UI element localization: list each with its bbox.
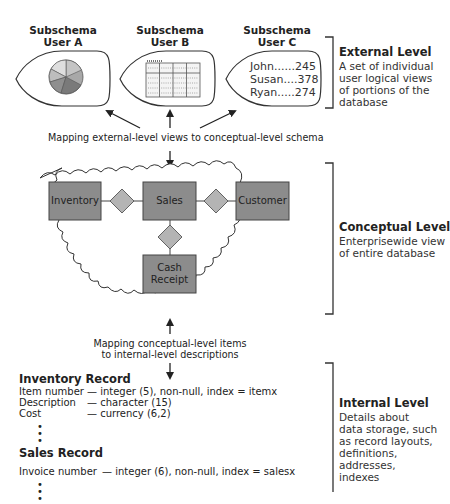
internal-level-label: Internal Level Details about data storag…	[339, 398, 449, 483]
subschema-b-view	[120, 51, 215, 106]
mapping-line2: to internal-level descriptions	[80, 349, 260, 360]
subschema-a-title-line1: Subschema	[23, 24, 103, 36]
desc-line: database	[339, 96, 433, 108]
user-c-list: John......245 Susan....378 Ryan.....274	[250, 60, 318, 99]
desc-line: Enterprisewide view	[339, 235, 450, 247]
desc-line: A set of individual	[339, 60, 433, 72]
desc-line: data storage, such	[339, 423, 449, 435]
sales-record-fields: Invoice number — integer (6), non-null, …	[19, 462, 295, 478]
field-name: Item number	[19, 387, 84, 397]
desc-line: definitions, addresses,	[339, 447, 449, 471]
external-level-label: External Level A set of individual user …	[339, 47, 433, 108]
internal-level-desc: Details about data storage, such as reco…	[339, 411, 449, 483]
user-c-row: Susan....378	[250, 73, 318, 86]
desc-line: as record layouts,	[339, 435, 449, 447]
entity-customer-label: Customer	[236, 196, 289, 206]
dot: •	[37, 437, 131, 444]
mapping-line1: Mapping conceptual-level items	[80, 338, 260, 349]
desc-line: of entire database	[339, 247, 450, 259]
internal-level-title: Internal Level	[339, 398, 449, 410]
desc-line: indexes	[339, 471, 449, 483]
sales-record-title: Sales Record	[19, 448, 295, 460]
entity-inventory-label: Inventory	[49, 196, 101, 206]
ellipsis-vertical: • • •	[37, 423, 131, 444]
external-level-desc: A set of individual user logical views o…	[339, 60, 433, 108]
subschema-a-view	[16, 51, 110, 106]
dot: •	[37, 430, 131, 437]
inventory-record-fields: Item number — integer (5), non-null, ind…	[19, 387, 131, 420]
subschema-b-title-line1: Subschema	[130, 24, 210, 36]
arrow-to-user-c	[200, 111, 235, 128]
field-spec: — integer (5), non-null, index = itemx	[87, 387, 277, 397]
dot: •	[37, 488, 295, 495]
cash-receipt-line1: Cash	[143, 262, 196, 274]
dot: •	[37, 481, 295, 488]
subschema-c-title: Subschema User C	[237, 24, 317, 48]
conceptual-level-title: Conceptual Level	[339, 222, 450, 234]
subschema-a-title: Subschema User A	[23, 24, 103, 48]
field-name: Cost	[19, 409, 41, 419]
field-name: Description	[19, 398, 76, 408]
internal-bracket	[325, 363, 333, 492]
conceptual-mapping-text: Mapping conceptual-level items to intern…	[80, 338, 260, 360]
external-level-title: External Level	[339, 47, 433, 59]
sales-record: Sales Record Invoice number — integer (6…	[19, 448, 295, 502]
desc-line: of portions of the	[339, 84, 433, 96]
field-name: Invoice number	[19, 466, 97, 477]
cash-receipt-line2: Receipt	[143, 274, 196, 286]
desc-line: Details about	[339, 411, 449, 423]
entity-cash-receipt-label: Cash Receipt	[143, 262, 196, 286]
conceptual-bracket	[325, 163, 333, 314]
inventory-record: Inventory Record Item number — integer (…	[19, 374, 131, 444]
desc-line: user logical views	[339, 72, 433, 84]
field-spec: — character (15)	[87, 398, 172, 408]
entity-sales-label: Sales	[143, 196, 196, 206]
arrow-to-user-a	[107, 111, 140, 128]
conceptual-level-desc: Enterprisewide view of entire database	[339, 235, 450, 259]
external-bracket	[325, 37, 333, 108]
subschema-b-title-line2: User B	[130, 36, 210, 48]
subschema-a-title-line2: User A	[23, 36, 103, 48]
subschema-c-title-line1: Subschema	[237, 24, 317, 36]
subschema-b-title: Subschema User B	[130, 24, 210, 48]
pie-chart-icon	[49, 60, 83, 94]
field-spec: — currency (6,2)	[87, 409, 171, 419]
table-grid-icon	[146, 61, 200, 97]
subschema-c-title-line2: User C	[237, 36, 317, 48]
ellipsis-vertical: • • •	[37, 481, 295, 502]
user-c-row: John......245	[250, 60, 318, 73]
inventory-record-title: Inventory Record	[19, 374, 131, 386]
dot: •	[37, 495, 295, 502]
user-c-row: Ryan.....274	[250, 86, 318, 99]
external-mapping-text: Mapping external-level views to conceptu…	[48, 132, 292, 143]
field-spec: — integer (6), non-null, index = salesx	[102, 466, 295, 477]
dot: •	[37, 423, 131, 430]
conceptual-level-label: Conceptual Level Enterprisewide view of …	[339, 222, 450, 259]
